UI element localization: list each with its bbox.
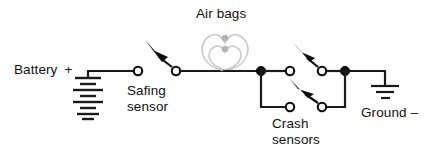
crash-sensor-1-terminal-right [318,67,326,75]
air-bags-label: Air bags [196,6,246,22]
ground-label: Ground – [361,105,418,121]
ground-symbol [345,71,399,98]
wire-lower-branch-left [261,71,288,107]
safing-sensor-label: Safingsensor [127,83,168,114]
safing-sensor-symbol [134,40,226,75]
crash-sensors-label: Crashsensors [272,116,320,147]
crash-sensor-2-terminal-left [286,103,294,111]
safing-sensor-arrow-head [145,40,168,62]
airbag-circuit-diagram: Battery+ Safingsensor Air bags Crashsens… [0,0,438,155]
wire-lower-branch-right [324,71,345,107]
air-bags-symbol [202,35,248,71]
battery-label-text: Battery [14,62,57,77]
crash-sensor-2-arrow-head [289,78,314,98]
crash-sensors-label-line2: sensors [272,132,320,147]
circuit-schematic-canvas [0,0,438,155]
safing-sensor-label-line2: sensor [127,99,168,114]
battery-label: Battery+ [14,62,72,78]
safing-sensor-label-line1: Safing [127,83,166,98]
crash-sensors-label-line1: Crash [272,116,309,131]
battery-polarity-label: + [64,62,72,77]
wire-to-ground [345,71,385,85]
crash-sensor-1-terminal-left [286,67,294,75]
crash-sensor-2-terminal-right [318,103,326,111]
crash-sensors-symbol [256,41,349,111]
crash-sensor-1-arrow-head [292,41,315,62]
air-bag-outer-dot [222,35,229,42]
air-bag-inner-dot [222,46,229,53]
safing-sensor-terminal-left [134,67,142,75]
